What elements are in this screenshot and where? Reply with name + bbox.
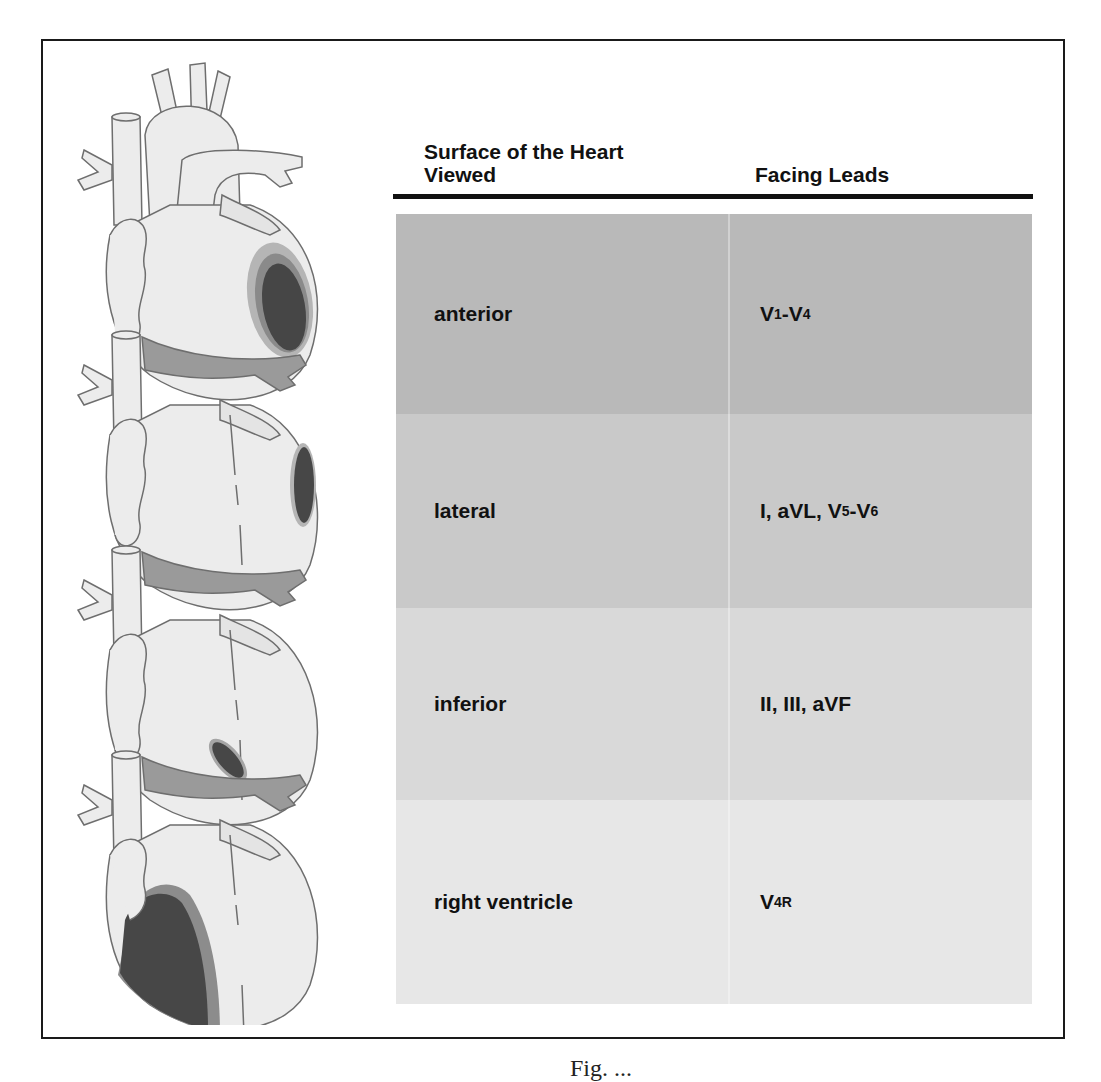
column-header-surface: Surface of the Heart Viewed	[424, 140, 674, 186]
table-row-right-ventricle: right ventricle V4R	[396, 800, 1032, 1004]
lead-text: -V	[782, 302, 803, 326]
table-row-lateral: lateral I, aVL, V5-V6	[396, 414, 1032, 608]
leads-cell: V1-V4	[730, 214, 1032, 414]
figure-caption-clipped: Fig. ...	[570, 1055, 632, 1082]
lead-text: V	[760, 890, 774, 914]
heart-right-ventricle-icon	[78, 751, 318, 1025]
lead-text: V	[760, 302, 774, 326]
lead-text: II, III, aVF	[760, 692, 851, 716]
column-header-leads: Facing Leads	[755, 163, 889, 186]
table-row-inferior: inferior II, III, aVF	[396, 608, 1032, 800]
leads-table: anterior V1-V4 lateral I, aVL, V5-V6 inf…	[396, 214, 1032, 1004]
lead-text: -V	[850, 499, 871, 523]
surface-cell: inferior	[396, 608, 728, 800]
header-rule	[393, 194, 1033, 199]
table-row-anterior: anterior V1-V4	[396, 214, 1032, 414]
leads-cell: I, aVL, V5-V6	[730, 414, 1032, 608]
leads-cell: V4R	[730, 800, 1032, 1004]
surface-cell: lateral	[396, 414, 728, 608]
surface-cell: right ventricle	[396, 800, 728, 1004]
heart-illustration	[70, 55, 370, 1025]
lead-text: I, aVL, V	[760, 499, 842, 523]
leads-cell: II, III, aVF	[730, 608, 1032, 800]
surface-cell: anterior	[396, 214, 728, 414]
